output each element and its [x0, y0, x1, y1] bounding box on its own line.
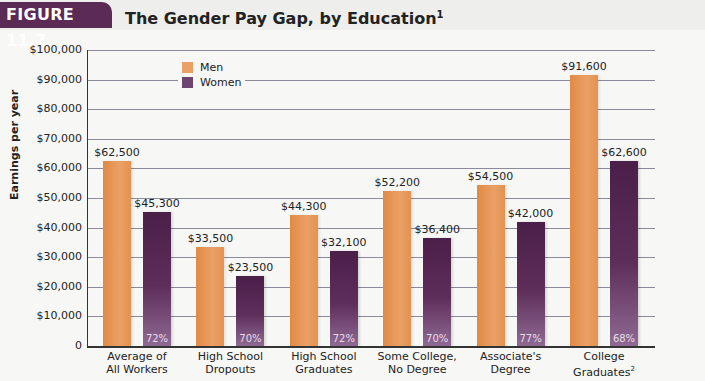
- men-swatch: [182, 62, 193, 73]
- y-tick-label: $90,000: [0, 73, 82, 86]
- pay-ratio-label: 72%: [330, 333, 358, 344]
- value-label: $62,600: [589, 146, 659, 159]
- y-tick-label: $100,000: [0, 43, 82, 56]
- men-bar: [383, 191, 411, 346]
- y-tick-label: $70,000: [0, 132, 82, 145]
- women-bar: 68%: [610, 161, 638, 346]
- pay-ratio-label: 70%: [423, 333, 451, 344]
- y-tick-label: $10,000: [0, 309, 82, 322]
- y-tick-label: $30,000: [0, 250, 82, 263]
- y-tick-label: 0: [0, 339, 82, 352]
- legend-item-men: Men: [182, 60, 241, 75]
- women-bar: 72%: [330, 251, 358, 346]
- legend: Men Women: [178, 60, 245, 90]
- value-label: $42,000: [496, 207, 566, 220]
- value-label: $33,500: [175, 232, 245, 245]
- y-tick-label: $60,000: [0, 161, 82, 174]
- value-label: $23,500: [215, 261, 285, 274]
- y-tick-label: $20,000: [0, 280, 82, 293]
- y-tick-label: $50,000: [0, 191, 82, 204]
- gridline: [88, 50, 655, 51]
- value-label: $45,300: [122, 197, 192, 210]
- value-label: $32,100: [309, 236, 379, 249]
- value-label: $44,300: [269, 200, 339, 213]
- legend-item-women: Women: [182, 75, 241, 90]
- bar-chart: Earnings per year $62,50072%$45,300$33,5…: [0, 0, 705, 381]
- women-bar: 77%: [517, 222, 545, 346]
- men-bar: [290, 215, 318, 346]
- value-label: $36,400: [402, 223, 472, 236]
- women-bar: 72%: [143, 212, 171, 346]
- y-axis: [87, 50, 88, 347]
- men-bar: [103, 161, 131, 346]
- value-label: $62,500: [82, 146, 152, 159]
- value-label: $54,500: [456, 170, 526, 183]
- y-tick-label: $80,000: [0, 102, 82, 115]
- value-label: $91,600: [549, 60, 619, 73]
- men-bar: [570, 75, 598, 346]
- women-swatch: [182, 77, 193, 88]
- pay-ratio-label: 68%: [610, 333, 638, 344]
- pay-ratio-label: 72%: [143, 333, 171, 344]
- women-bar: 70%: [423, 238, 451, 346]
- pay-ratio-label: 70%: [236, 333, 264, 344]
- x-axis: [87, 346, 655, 348]
- women-bar: 70%: [236, 276, 264, 346]
- y-tick-label: $40,000: [0, 221, 82, 234]
- category-label: CollegeGraduates2: [549, 350, 659, 379]
- value-label: $52,200: [362, 176, 432, 189]
- pay-ratio-label: 77%: [517, 333, 545, 344]
